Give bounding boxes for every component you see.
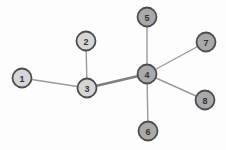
graph-svg: 12345678 — [0, 0, 226, 150]
node-4 — [138, 65, 157, 84]
node-2 — [77, 32, 96, 51]
graph-diagram: 12345678 — [0, 0, 226, 150]
node-6 — [139, 122, 158, 141]
node-8 — [196, 91, 215, 110]
node-7 — [197, 33, 216, 52]
node-5 — [138, 8, 157, 27]
node-3 — [78, 79, 97, 98]
node-1 — [13, 69, 32, 88]
